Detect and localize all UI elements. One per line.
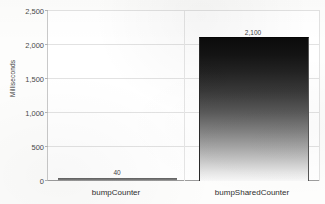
y-tick-mark-0 xyxy=(45,180,48,181)
y-tick-mark-1000 xyxy=(45,112,48,113)
plot-area: 40 2,100 xyxy=(47,11,320,181)
bar-bumpsharedcounter[interactable] xyxy=(199,37,309,181)
y-tick-mark-1500 xyxy=(45,78,48,79)
y-tick-label-0: 0 xyxy=(4,177,44,186)
y-tick-label-2500: 2,500 xyxy=(4,7,44,16)
y-tick-mark-2000 xyxy=(45,44,48,45)
category-divider xyxy=(184,11,185,181)
y-tick-label-1000: 1,000 xyxy=(4,109,44,118)
data-label-bumpsharedcounter: 2,100 xyxy=(245,29,261,36)
plot-right-edge xyxy=(319,11,320,181)
y-tick-mark-500 xyxy=(45,146,48,147)
y-tick-mark-2500 xyxy=(45,10,48,11)
bar-bumpcounter[interactable] xyxy=(58,178,177,181)
x-tick-label-bumpcounter: bumpCounter xyxy=(92,188,140,197)
y-tick-label-500: 500 xyxy=(4,143,44,152)
y-tick-label-1500: 1,500 xyxy=(4,75,44,84)
x-tick-label-bumpsharedcounter: bumpSharedCounter xyxy=(215,188,289,197)
data-label-bumpcounter: 40 xyxy=(113,169,120,176)
y-tick-label-2000: 2,000 xyxy=(4,41,44,50)
bar-chart-figure: Milliseconds 0 500 1,000 1,500 2,000 2,5… xyxy=(0,0,325,204)
